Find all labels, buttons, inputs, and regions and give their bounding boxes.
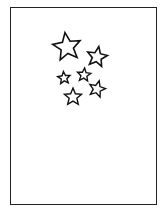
small-middle-star-icon (78, 68, 91, 81)
top-right-star-icon (88, 47, 108, 67)
small-left-star-icon (58, 72, 70, 84)
bottom-star-icon (64, 88, 81, 104)
large-star-icon (53, 33, 80, 60)
stars-group (0, 0, 167, 215)
right-star-icon (90, 81, 106, 97)
